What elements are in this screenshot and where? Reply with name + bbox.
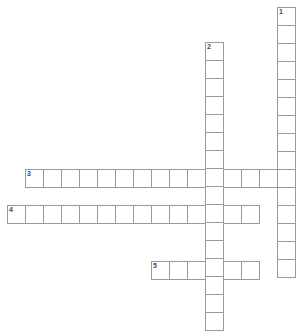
crossword-cell[interactable]: 3 <box>25 169 44 188</box>
crossword-cell[interactable] <box>223 205 242 224</box>
crossword-cell[interactable] <box>241 169 260 188</box>
clue-number-4: 4 <box>9 206 13 214</box>
crossword-cell[interactable] <box>205 204 224 223</box>
crossword-cell[interactable] <box>169 261 188 280</box>
crossword-cell[interactable] <box>205 78 224 97</box>
crossword-cell[interactable] <box>223 169 242 188</box>
crossword-cell[interactable] <box>277 223 296 242</box>
crossword-cell[interactable] <box>187 205 206 224</box>
crossword-cell[interactable] <box>151 205 170 224</box>
crossword-cell[interactable] <box>259 169 278 188</box>
crossword-cell[interactable] <box>241 205 260 224</box>
crossword-cell[interactable] <box>241 261 260 280</box>
crossword-cell[interactable] <box>43 169 62 188</box>
clue-number-3: 3 <box>27 170 31 178</box>
crossword-cell[interactable]: 1 <box>277 7 296 26</box>
crossword-cell[interactable] <box>205 276 224 295</box>
crossword-cell[interactable]: 5 <box>151 261 170 280</box>
crossword-cell[interactable] <box>277 115 296 134</box>
crossword-cell[interactable] <box>97 169 116 188</box>
crossword-cell[interactable] <box>187 261 206 280</box>
crossword-cell[interactable] <box>205 312 224 331</box>
crossword-cell[interactable] <box>205 60 224 79</box>
crossword-cell[interactable] <box>61 169 80 188</box>
crossword-cell[interactable] <box>205 96 224 115</box>
crossword-cell[interactable] <box>43 205 62 224</box>
crossword-cell[interactable] <box>223 261 242 280</box>
crossword-cell[interactable] <box>79 205 98 224</box>
crossword-cell[interactable] <box>61 205 80 224</box>
crossword-cell[interactable] <box>277 187 296 206</box>
crossword-cell[interactable]: 2 <box>205 42 224 61</box>
crossword-cell[interactable] <box>277 169 296 188</box>
crossword-cell[interactable] <box>205 132 224 151</box>
crossword-cell[interactable] <box>277 43 296 62</box>
crossword-cell[interactable] <box>115 169 134 188</box>
crossword-grid: 12345 <box>0 0 303 335</box>
crossword-cell[interactable] <box>277 79 296 98</box>
crossword-cell[interactable] <box>205 240 224 259</box>
crossword-cell[interactable] <box>277 241 296 260</box>
crossword-cell[interactable] <box>187 169 206 188</box>
crossword-cell[interactable] <box>277 133 296 152</box>
clue-number-2: 2 <box>207 43 211 51</box>
crossword-cell[interactable]: 4 <box>7 205 26 224</box>
crossword-cell[interactable] <box>97 205 116 224</box>
crossword-cell[interactable] <box>277 151 296 170</box>
crossword-cell[interactable] <box>205 294 224 313</box>
clue-number-1: 1 <box>279 8 283 16</box>
crossword-cell[interactable] <box>169 205 188 224</box>
crossword-cell[interactable] <box>115 205 134 224</box>
crossword-cell[interactable] <box>277 61 296 80</box>
crossword-cell[interactable] <box>169 169 188 188</box>
crossword-cell[interactable] <box>133 205 152 224</box>
clue-number-5: 5 <box>153 262 157 270</box>
crossword-cell[interactable] <box>277 25 296 44</box>
crossword-cell[interactable] <box>79 169 98 188</box>
crossword-cell[interactable] <box>25 205 44 224</box>
crossword-cell[interactable] <box>205 168 224 187</box>
crossword-cell[interactable] <box>205 114 224 133</box>
crossword-cell[interactable] <box>205 150 224 169</box>
crossword-cell[interactable] <box>205 186 224 205</box>
crossword-cell[interactable] <box>133 169 152 188</box>
crossword-cell[interactable] <box>277 205 296 224</box>
crossword-cell[interactable] <box>277 97 296 116</box>
crossword-cell[interactable] <box>277 259 296 278</box>
crossword-cell[interactable] <box>151 169 170 188</box>
crossword-cell[interactable] <box>205 258 224 277</box>
crossword-cell[interactable] <box>205 222 224 241</box>
